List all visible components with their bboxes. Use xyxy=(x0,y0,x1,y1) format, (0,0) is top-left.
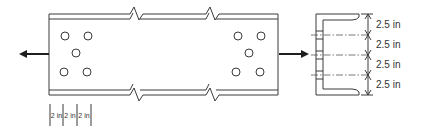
bolt-hole-icon xyxy=(84,32,92,40)
bottom-flange-inner-line xyxy=(49,84,278,90)
channel-inner-outline xyxy=(323,14,359,95)
bolt-hole-icon xyxy=(256,68,264,76)
right-bolt-group xyxy=(232,32,265,76)
bolt-hole-icon xyxy=(60,68,68,76)
spacing-label: 2 in xyxy=(51,112,62,119)
gauge-label: 2.5 in xyxy=(376,19,400,30)
bolt-hole-icon xyxy=(232,68,240,76)
bolt-hole-icon xyxy=(245,49,253,57)
spacing-label: 2 in xyxy=(64,112,75,119)
gauge-label: 2.5 in xyxy=(376,79,400,90)
channel-section-view xyxy=(311,14,370,95)
right-load-arrow-icon xyxy=(279,50,309,58)
bolt-hole-icon xyxy=(257,32,265,40)
channel-outer-outline xyxy=(316,14,359,95)
gauge-label: 2.5 in xyxy=(376,59,400,70)
bolt-hole-icon xyxy=(72,49,80,57)
longitudinal-spacing-dimension: 2 in 2 in 2 in xyxy=(50,104,91,126)
bolt-hole-icon xyxy=(234,32,242,40)
left-bolt-group xyxy=(60,32,92,76)
channel-plan-view xyxy=(49,7,278,101)
left-load-arrow-icon xyxy=(19,50,49,58)
top-flange-outer-line xyxy=(49,7,278,20)
bolt-hole-icon xyxy=(83,68,91,76)
connection-diagram: 2 in 2 in 2 in 2.5 in 2.5 in 2.5 in xyxy=(0,0,421,134)
gauge-label: 2.5 in xyxy=(376,39,400,50)
spacing-label: 2 in xyxy=(78,112,89,119)
bolt-hole-icon xyxy=(61,32,69,40)
transverse-spacing-dimension: 2.5 in 2.5 in 2.5 in 2.5 in xyxy=(361,14,400,95)
